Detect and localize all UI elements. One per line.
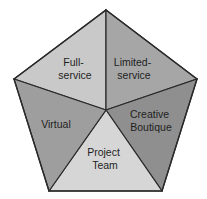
agency-types-pentagon-diagram: Full- service Limited- service Creative …: [0, 0, 207, 199]
label-project-team: Project Team: [87, 146, 123, 171]
label-creative-boutique: Creative Boutique: [130, 108, 172, 133]
label-limited-service: Limited- service: [114, 56, 154, 81]
label-virtual: Virtual: [41, 118, 71, 130]
